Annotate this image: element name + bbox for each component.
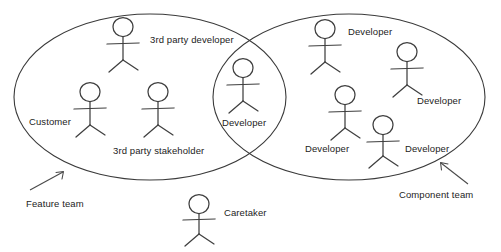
feature-team-arrow <box>30 172 64 191</box>
group-label-feature-team: Feature team <box>26 199 84 209</box>
actor-figure-developer-lower <box>367 116 399 169</box>
actor-figure-customer <box>74 83 106 138</box>
actor-figure-3rd-party-developer <box>107 18 139 73</box>
actor-figure-developer-shared <box>227 59 259 114</box>
actor-label-developer-top: Developer <box>348 27 392 37</box>
actor-label-developer-shared: Developer <box>222 118 266 128</box>
actor-label-caretaker: Caretaker <box>224 208 267 218</box>
actor-label-developer-lower: Developer <box>405 144 449 154</box>
actor-figure-3rd-party-stakeholder <box>142 83 174 138</box>
actor-label-developer-mid: Developer <box>305 144 349 154</box>
actor-figure-developer-right <box>391 43 423 98</box>
actor-label-developer-right: Developer <box>417 96 461 106</box>
actor-label-3rd-party-stakeholder: 3rd party stakeholder <box>113 146 204 156</box>
group-label-component-team: Component team <box>399 190 473 200</box>
component-team-arrow <box>441 163 469 185</box>
actor-label-customer: Customer <box>29 117 71 127</box>
actor-figure-developer-mid <box>329 86 361 141</box>
diagram-canvas: 3rd party developer Customer 3rd party s… <box>0 0 501 252</box>
actor-figure-developer-top <box>309 20 341 75</box>
actor-figure-caretaker <box>183 195 215 247</box>
actor-label-3rd-party-developer: 3rd party developer <box>150 35 234 45</box>
